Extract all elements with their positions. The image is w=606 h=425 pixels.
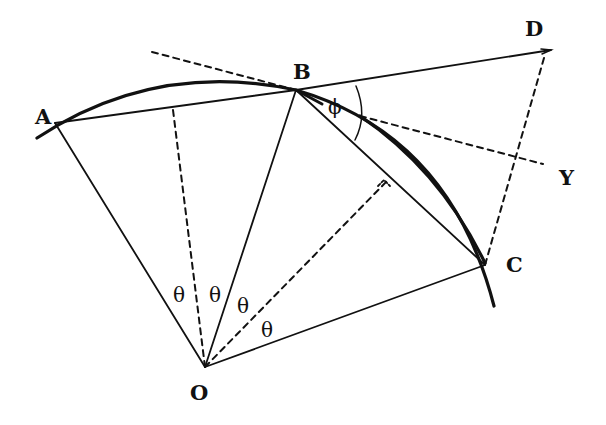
chord-AB xyxy=(55,90,296,123)
radius-OB xyxy=(205,90,296,367)
label-theta-1: θ xyxy=(173,285,185,305)
bisector-AB xyxy=(173,110,205,367)
radius-OA xyxy=(55,123,205,367)
label-point-B: B xyxy=(293,61,311,82)
line-to-Y xyxy=(360,116,543,164)
label-theta-4: θ xyxy=(261,320,273,340)
label-point-Y: Y xyxy=(559,167,574,188)
chord-BC xyxy=(296,90,485,265)
bisector-BC xyxy=(205,180,388,367)
label-theta-2: θ xyxy=(209,285,221,305)
label-point-D: D xyxy=(525,18,543,39)
label-point-O: O xyxy=(190,382,208,403)
label-phi: ϕ xyxy=(328,97,342,117)
label-point-C: C xyxy=(506,254,523,275)
line-BD xyxy=(296,50,551,90)
label-point-A: A xyxy=(35,106,51,127)
label-theta-3: θ xyxy=(237,296,249,316)
